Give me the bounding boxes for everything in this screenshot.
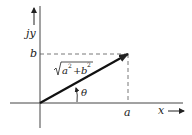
theta-label: θ xyxy=(81,87,87,98)
magnitude-label: a 2 + b 2 xyxy=(54,61,93,76)
a-label: a xyxy=(124,106,131,119)
jy-label: jy xyxy=(23,27,36,40)
exponent-b: 2 xyxy=(87,61,91,68)
x-label: x xyxy=(158,104,165,117)
exponent-a: 2 xyxy=(68,62,72,69)
theta-arc-icon xyxy=(76,88,77,102)
b-label: b xyxy=(30,47,37,60)
phasor-diagram: jy x b a θ a 2 + b 2 xyxy=(0,0,192,135)
